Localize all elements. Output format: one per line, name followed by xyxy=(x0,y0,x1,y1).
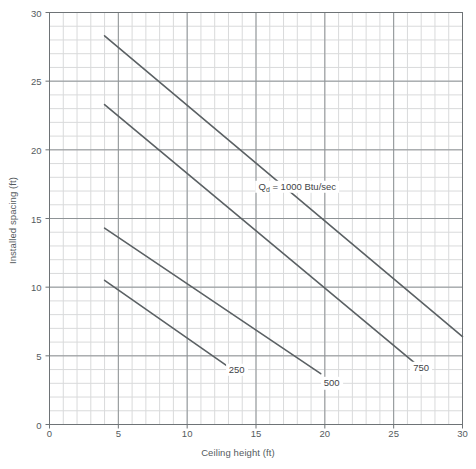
plot-canvas xyxy=(0,0,476,469)
axis-ticks xyxy=(46,13,463,429)
x-tick-label: 25 xyxy=(388,428,399,439)
x-tick-label: 20 xyxy=(320,428,331,439)
chart-figure: Installed spacing (ft) Ceiling height (f… xyxy=(0,0,476,469)
label-250: 250 xyxy=(226,363,248,375)
y-tick-label: 10 xyxy=(16,282,42,293)
x-tick-label: 5 xyxy=(116,428,121,439)
y-tick-label: 25 xyxy=(16,76,42,87)
y-tick-label: 15 xyxy=(16,213,42,224)
x-tick-label: 0 xyxy=(47,428,52,439)
y-tick-label: 0 xyxy=(16,419,42,430)
y-tick-label: 5 xyxy=(16,350,42,361)
y-tick-label: 30 xyxy=(16,7,42,18)
x-tick-label: 15 xyxy=(251,428,262,439)
major-gridlines xyxy=(50,13,463,425)
y-tick-label: 20 xyxy=(16,144,42,155)
x-tick-label: 10 xyxy=(182,428,193,439)
label-750: 750 xyxy=(410,362,432,374)
x-axis-title: Ceiling height (ft) xyxy=(0,447,476,458)
label-500: 500 xyxy=(321,377,343,389)
series-line-250 xyxy=(105,280,229,367)
label-1000: Qd = 1000 Btu/sec xyxy=(256,181,340,193)
x-tick-label: 30 xyxy=(457,428,468,439)
series-line-750 xyxy=(105,105,415,363)
